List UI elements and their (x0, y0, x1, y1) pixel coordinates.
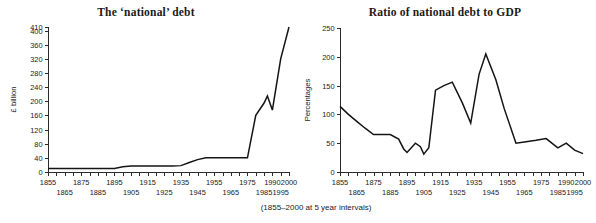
x-tick-label: 1885 (382, 188, 398, 197)
y-tick-label: 160 (30, 111, 42, 120)
x-tick-label: 1925 (156, 188, 172, 197)
x-tick-label: 1955 (206, 178, 222, 187)
y-tick-label: 360 (30, 41, 42, 50)
y-tick-label: 150 (322, 82, 334, 91)
x-tick-label: 1990 (264, 178, 280, 187)
figure-caption: (1855–2000 at 5 year intervals) (0, 203, 596, 212)
line-chart-national-debt: 0408012016020024028032036040041018551875… (0, 0, 298, 205)
x-tick-label: 1990 (558, 178, 574, 187)
x-tick-label: 1975 (533, 178, 549, 187)
x-tick-label: 1965 (223, 188, 239, 197)
line-chart-debt-to-gdp: 0501001502002501855187518951915193519551… (298, 0, 596, 205)
y-tick-label: 200 (30, 97, 42, 106)
y-tick-label: 50 (326, 139, 334, 148)
y-axis-label: Percentages (303, 78, 312, 121)
chart-panel-national-debt: The ‘national’ debt 04080120160200240280… (0, 0, 298, 205)
x-tick-label: 1945 (189, 188, 205, 197)
y-tick-label: 280 (30, 69, 42, 78)
y-tick-label: 120 (30, 126, 42, 135)
y-tick-label: 40 (34, 154, 42, 163)
x-tick-label: 1965 (516, 188, 532, 197)
x-tick-label: 1895 (399, 178, 415, 187)
x-tick-label: 1955 (499, 178, 515, 187)
x-tick-label: 1935 (466, 178, 482, 187)
x-tick-label: 1975 (239, 178, 255, 187)
x-tick-label: 1895 (106, 178, 122, 187)
y-tick-label: 240 (30, 83, 42, 92)
x-tick-label: 1985 (256, 188, 272, 197)
y-tick-label: 250 (322, 24, 334, 33)
x-tick-label: 1925 (449, 188, 465, 197)
x-tick-label: 1935 (173, 178, 189, 187)
x-tick-label: 1885 (90, 188, 106, 197)
x-tick-label: 1855 (332, 178, 348, 187)
x-tick-label: 1855 (40, 178, 56, 187)
x-tick-label: 1915 (432, 178, 448, 187)
x-tick-label: 1905 (123, 188, 139, 197)
series-line (48, 27, 289, 168)
y-tick-label: 320 (30, 55, 42, 64)
y-axis-label: £ billion (9, 87, 18, 113)
y-tick-label: 410 (30, 23, 42, 32)
y-tick-label: 200 (322, 53, 334, 62)
y-tick-label: 0 (38, 168, 42, 177)
chart-panel-debt-to-gdp: Ratio of national debt to GDP 0501001502… (298, 0, 596, 205)
x-tick-label: 2000 (281, 178, 297, 187)
series-line (340, 54, 583, 154)
x-tick-label: 1865 (349, 188, 365, 197)
y-tick-label: 0 (330, 168, 334, 177)
x-tick-label: 2000 (575, 178, 591, 187)
x-tick-label: 1995 (272, 188, 288, 197)
x-tick-label: 1905 (416, 188, 432, 197)
y-tick-label: 80 (34, 140, 42, 149)
x-tick-label: 1865 (56, 188, 72, 197)
x-tick-label: 1915 (139, 178, 155, 187)
x-tick-label: 1875 (365, 178, 381, 187)
figure-two-line-charts: The ‘national’ debt 04080120160200240280… (0, 0, 596, 223)
x-tick-label: 1985 (550, 188, 566, 197)
x-tick-label: 1945 (483, 188, 499, 197)
x-tick-label: 1875 (73, 178, 89, 187)
x-tick-label: 1995 (566, 188, 582, 197)
y-tick-label: 100 (322, 110, 334, 119)
